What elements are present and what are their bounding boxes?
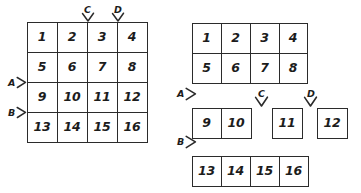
arrow-right-icon-b-left bbox=[16, 106, 28, 119]
arrow-down-icon-c-right bbox=[254, 96, 269, 108]
grid-cell: 1 bbox=[192, 23, 221, 53]
grid-cell: 11 bbox=[272, 108, 302, 138]
original-grid: 1 2 3 4 5 6 7 8 9 10 11 12 13 14 15 16 bbox=[27, 22, 148, 143]
grid-cell: 3 bbox=[250, 23, 279, 53]
grid-cell: 4 bbox=[279, 23, 307, 53]
grid-cell: 15 bbox=[250, 156, 279, 186]
marker-label-a-left: A bbox=[8, 78, 15, 88]
grid-cell: 14 bbox=[221, 156, 250, 186]
grid-cell: 4 bbox=[117, 22, 147, 52]
grid-cell: 16 bbox=[117, 112, 147, 142]
grid-cell: 8 bbox=[279, 53, 307, 83]
arrow-down-icon-d-right bbox=[303, 96, 318, 108]
arrow-right-icon-b-right bbox=[185, 135, 198, 149]
grid-cell: 2 bbox=[57, 22, 87, 52]
grid-cell: 12 bbox=[117, 82, 147, 112]
grid-cell: 7 bbox=[87, 52, 117, 82]
fragment-block-top: 1 2 3 4 5 6 7 8 bbox=[192, 23, 308, 84]
grid-cell: 1 bbox=[27, 22, 57, 52]
fragment-block-bottom: 13 14 15 16 bbox=[192, 156, 309, 187]
grid-cell: 13 bbox=[27, 112, 57, 142]
grid-cell: 16 bbox=[279, 156, 308, 186]
marker-label-b-right: B bbox=[177, 137, 184, 147]
grid-cell: 6 bbox=[57, 52, 87, 82]
grid-cell: 13 bbox=[192, 156, 221, 186]
arrow-down-icon-c-left bbox=[81, 12, 95, 23]
grid-cell: 2 bbox=[221, 23, 250, 53]
grid-cell: 8 bbox=[117, 52, 147, 82]
diagram-canvas: 1 2 3 4 5 6 7 8 9 10 11 12 13 14 15 16 C… bbox=[0, 0, 361, 193]
fragment-block-9-10: 9 10 bbox=[192, 108, 252, 139]
grid-cell: 9 bbox=[27, 82, 57, 112]
grid-cell: 10 bbox=[221, 108, 251, 138]
grid-cell: 11 bbox=[87, 82, 117, 112]
marker-label-a-right: A bbox=[177, 89, 184, 99]
grid-cell: 14 bbox=[57, 112, 87, 142]
grid-cell: 15 bbox=[87, 112, 117, 142]
grid-cell: 5 bbox=[27, 52, 57, 82]
arrow-right-icon-a-left bbox=[16, 76, 28, 89]
fragment-block-11: 11 bbox=[272, 108, 303, 139]
arrow-down-icon-d-left bbox=[111, 12, 125, 23]
grid-cell: 7 bbox=[250, 53, 279, 83]
grid-cell: 3 bbox=[87, 22, 117, 52]
marker-label-b-left: B bbox=[8, 108, 15, 118]
grid-cell: 6 bbox=[221, 53, 250, 83]
grid-cell: 5 bbox=[192, 53, 221, 83]
grid-cell: 9 bbox=[192, 108, 221, 138]
grid-cell: 10 bbox=[57, 82, 87, 112]
fragment-block-12: 12 bbox=[317, 108, 348, 139]
grid-cell: 12 bbox=[317, 108, 347, 138]
arrow-right-icon-a-right bbox=[185, 87, 198, 101]
